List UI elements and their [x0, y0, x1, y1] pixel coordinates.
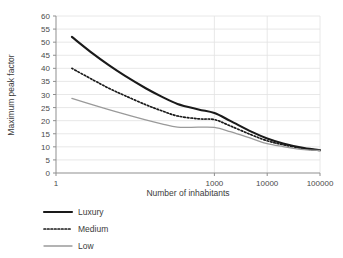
y-tick-label: 40 [41, 64, 50, 73]
chart-background [0, 0, 343, 258]
y-tick-label: 10 [41, 143, 50, 152]
y-tick-label: 35 [41, 77, 50, 86]
line-chart: 051015202530354045505560 110001000010000… [0, 0, 343, 258]
y-tick-label: 20 [41, 117, 50, 126]
x-tick-label: 1000 [206, 179, 224, 188]
x-axis-title: Number of inhabitants [146, 188, 229, 198]
y-tick-label: 15 [41, 130, 50, 139]
x-tick-label: 10000 [256, 179, 279, 188]
y-tick-label: 5 [46, 156, 51, 165]
y-tick-label: 55 [41, 25, 50, 34]
y-tick-label: 30 [41, 91, 50, 100]
legend-label-medium: Medium [78, 224, 108, 234]
y-tick-label: 60 [41, 12, 50, 21]
legend-label-luxury: Luxury [78, 207, 104, 217]
y-axis-title: Maximum peak factor [6, 54, 16, 135]
y-tick-label: 50 [41, 38, 50, 47]
legend-label-low: Low [78, 241, 94, 251]
x-tick-label: 1 [54, 179, 59, 188]
y-tick-label: 0 [46, 169, 51, 178]
chart-figure: 051015202530354045505560 110001000010000… [0, 0, 343, 258]
y-tick-label: 25 [41, 104, 50, 113]
y-tick-label: 45 [41, 51, 50, 60]
x-tick-label: 100000 [307, 179, 334, 188]
